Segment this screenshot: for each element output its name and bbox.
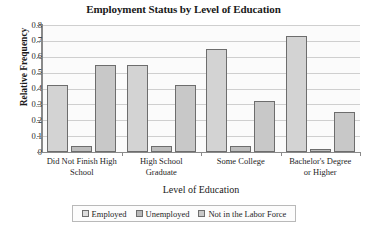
bar <box>151 146 172 152</box>
legend-item[interactable]: Unemployed <box>136 209 190 219</box>
x-category-label-line: Graduate <box>117 167 207 178</box>
x-category-label: Some College <box>196 156 286 167</box>
x-category-label: Did Not Finish HighSchool <box>37 156 127 177</box>
bar <box>206 49 227 152</box>
legend-swatch-icon <box>198 210 205 217</box>
x-category-label-line: Bachelor's Degree <box>276 156 366 167</box>
x-category-label-line: High School <box>117 156 207 167</box>
bar <box>310 149 331 152</box>
x-category-label-line: School <box>37 167 127 178</box>
x-category-label-line: Did Not Finish High <box>37 156 127 167</box>
y-axis-tick-labels: 00.10.20.30.40.50.60.70.8 <box>0 0 42 229</box>
legend-label: Not in the Labor Force <box>208 209 286 219</box>
bar <box>95 65 116 152</box>
legend-swatch-icon <box>82 210 89 217</box>
bar <box>47 85 68 152</box>
chart-legend: EmployedUnemployedNot in the Labor Force <box>72 205 296 222</box>
bar <box>334 112 355 152</box>
x-tick-mark <box>360 152 361 156</box>
x-category-label-line: Some College <box>196 156 286 167</box>
x-axis-title: Level of Education <box>42 184 360 195</box>
x-category-label: High SchoolGraduate <box>117 156 207 177</box>
bar <box>286 36 307 152</box>
legend-item[interactable]: Employed <box>82 209 127 219</box>
bars-layer <box>42 25 360 152</box>
bar <box>254 101 275 152</box>
x-category-label-line: or Higher <box>276 167 366 178</box>
legend-swatch-icon <box>136 210 143 217</box>
bar <box>175 85 196 152</box>
employment-status-bar-chart: Employment Status by Level of Education … <box>0 0 367 229</box>
chart-title: Employment Status by Level of Education <box>0 3 367 15</box>
x-category-label: Bachelor's Degreeor Higher <box>276 156 366 177</box>
legend-label: Unemployed <box>146 209 190 219</box>
y-tick-mark <box>37 152 42 153</box>
bar <box>127 65 148 152</box>
bar <box>230 146 251 152</box>
bar <box>71 146 92 152</box>
legend-item[interactable]: Not in the Labor Force <box>198 209 286 219</box>
legend-label: Employed <box>92 209 127 219</box>
